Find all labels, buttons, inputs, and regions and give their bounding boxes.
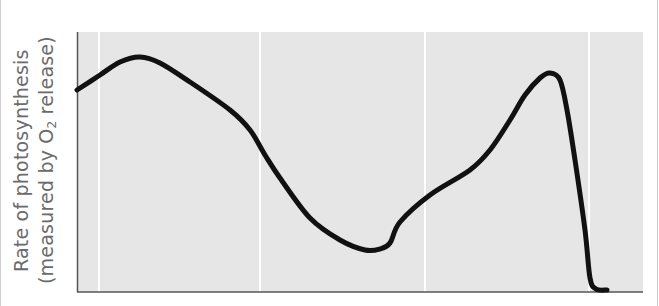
chart-svg: [0, 0, 659, 306]
plot-area: [77, 32, 643, 292]
